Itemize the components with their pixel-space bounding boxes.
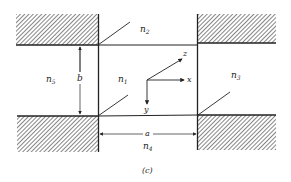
waveguide-cross-section-diagram: z x y n1 n2 n3 n4 n5 b a (c) bbox=[0, 0, 291, 182]
region-label-n4: n4 bbox=[143, 141, 153, 152]
z-axis-arrow bbox=[147, 59, 182, 80]
dimension-label-a: a bbox=[145, 129, 150, 138]
hatched-region-bottom-left bbox=[17, 116, 98, 152]
axis-label-x: x bbox=[187, 75, 192, 84]
perspective-line-bottom-left bbox=[98, 95, 128, 116]
region-label-n2: n2 bbox=[140, 24, 150, 35]
axis-label-z: z bbox=[182, 49, 188, 58]
hatched-region-top-right bbox=[198, 14, 276, 43]
core-bottom-boundary bbox=[98, 115, 198, 116]
axis-label-y: y bbox=[143, 105, 149, 114]
region-label-n3: n3 bbox=[231, 70, 241, 81]
perspective-line-bottom-right bbox=[198, 92, 230, 115]
hatched-region-top-left bbox=[16, 14, 98, 45]
region-label-n1: n1 bbox=[118, 74, 128, 85]
dimension-label-b: b bbox=[77, 73, 83, 83]
figure-caption: (c) bbox=[142, 166, 153, 175]
region-label-n5: n5 bbox=[46, 74, 56, 85]
hatched-region-bottom-right bbox=[198, 115, 276, 150]
perspective-line-top bbox=[98, 22, 130, 45]
